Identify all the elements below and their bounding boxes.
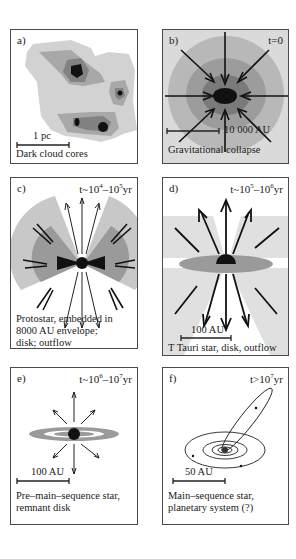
time-prefix: t>10 [250,373,270,385]
panel-b-gravitational-collapse: b) t=0 10 000 AU Gravitational collapse [162,29,289,164]
time-label: t~104–105yr [79,182,132,195]
time-unit: yr [274,373,283,385]
caption-line: disk; outflow [16,337,113,349]
panel-caption: Protostar, embedded in 8000 AU envelope;… [16,313,113,349]
panel-c-protostar: c) t~104–105yr Protostar, embedded in 80… [10,177,138,349]
panel-caption: Main–sequence star, planetary system (?) [168,490,254,514]
caption-line: Pre–main–sequence star, [16,490,120,502]
time-mid: –10 [103,373,120,385]
time-prefix: t~10 [230,183,250,195]
scale-label: 1 pc [33,130,51,141]
caption-line: 8000 AU envelope; [16,325,113,337]
scale-label: 100 AU [31,466,64,477]
panel-f-main-sequence: f) t>107yr 50 AU Main–sequence star, pla… [162,367,289,525]
panel-label: c) [17,182,26,194]
time-prefix: t~10 [79,373,99,385]
t-tauri-illustration [163,178,289,356]
scale-label: 50 AU [185,466,213,477]
panel-label: f) [169,372,176,384]
scale-label: 100 AU [191,324,224,335]
time-unit: yr [274,183,283,195]
panel-caption: T Tauri star, disk, outflow [168,342,277,354]
time-label: t>107yr [250,372,283,385]
time-label: t~105–106yr [230,182,283,195]
caption-line: planetary system (?) [168,502,254,514]
dark-cloud-illustration [11,30,138,164]
panel-d-t-tauri: d) t~105–106yr 100 AU T Tauri star, disk… [162,177,289,356]
panel-caption: Pre–main–sequence star, remnant disk [16,490,120,514]
caption-line: remnant disk [16,502,120,514]
time-mid: –10 [254,183,271,195]
panel-caption: Gravitational collapse [168,144,260,156]
panel-caption: Dark cloud cores [16,148,88,160]
panel-a-dark-cloud-cores: a) 1 pc Dark cloud cores [10,29,138,164]
time-unit: yr [123,183,132,195]
panel-label: a) [17,34,26,46]
scale-label: 10 000 AU [224,124,270,135]
time-unit: yr [123,373,132,385]
panel-label: d) [169,182,178,194]
panel-label: e) [17,372,26,384]
time-label: t~106–107yr [79,372,132,385]
time-mid: –10 [103,183,120,195]
time-prefix: t~10 [79,183,99,195]
panel-e-pre-main-sequence: e) t~106–107yr 100 AU Pre–main–sequence … [10,367,138,525]
caption-line: Main–sequence star, [168,490,254,502]
caption-line: Protostar, embedded in [16,313,113,325]
